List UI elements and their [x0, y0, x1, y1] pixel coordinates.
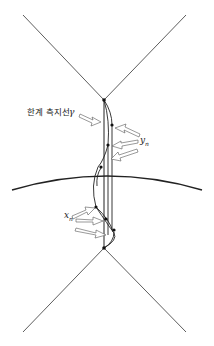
label-xn: xn [64, 210, 73, 222]
arrow-yn-2 [112, 140, 138, 149]
lower-light-cone [23, 248, 186, 332]
arrow-gamma [79, 114, 101, 126]
causal-geodesic-diagram: 한계 측지선 γ yn xn [0, 0, 214, 346]
arrow-yn-3 [111, 149, 138, 161]
arrow-xn-1 [72, 207, 95, 219]
label-yn: yn [139, 135, 149, 147]
cauchy-surface-arc [12, 176, 202, 190]
label-gamma: γ [69, 107, 75, 117]
arrow-xn-3 [75, 228, 106, 238]
arrow-xn-2 [76, 217, 103, 225]
label-limit-geodesic: 한계 측지선 [27, 107, 70, 117]
label-yn-sub: n [145, 140, 149, 147]
arrow-yn-1 [115, 124, 140, 137]
label-xn-sub: n [69, 215, 73, 222]
upper-light-cone [23, 15, 186, 100]
